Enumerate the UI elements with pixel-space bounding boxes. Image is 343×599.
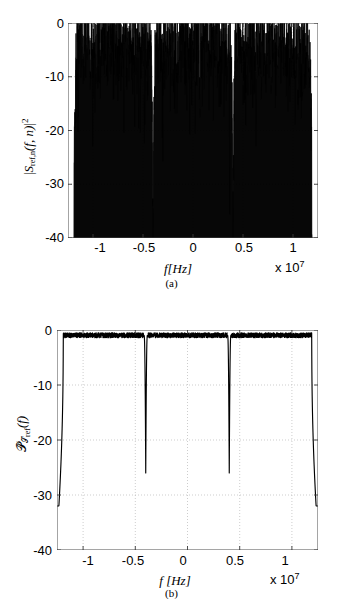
panel-b-ytick-0: 0 (24, 324, 52, 337)
panel-b-exponent: x 107 (270, 571, 300, 587)
panel-a-ytick-3: -30 (30, 177, 64, 190)
panel-a-ytick-2: -20 (30, 124, 64, 137)
panel-b-svg (57, 330, 318, 550)
panel-a-xtick-0: -1 (83, 241, 117, 254)
panel-a-xtick-2: 0 (176, 241, 210, 254)
panel-b-xtick-3: 0.5 (215, 554, 255, 567)
panel-b: 𝒫̂𝒮ref(f) 0 -10 -20 -30 -40 -1 -0.5 0 0.… (0, 292, 343, 596)
panel-a-plot-area (68, 23, 318, 238)
panel-a-xtick-3: 0.5 (224, 241, 264, 254)
panel-a-exponent-sup: 7 (300, 259, 305, 269)
panel-a-data-series (68, 23, 318, 238)
panel-a-ytick-4: -40 (30, 231, 64, 244)
panel-a: |Sref,n(f, n)|2 0 -10 -20 -30 -40 -1 -0.… (0, 0, 343, 292)
panel-b-ytick-3: -30 (18, 489, 52, 502)
panel-a-svg (68, 23, 318, 238)
panel-b-ytick-1: -10 (18, 379, 52, 392)
panel-b-caption: (b) (0, 587, 343, 599)
panel-b-exponent-sup: 7 (295, 571, 300, 581)
panel-b-gridlines (57, 330, 318, 550)
panel-b-ytick-2: -20 (18, 434, 52, 447)
panel-a-exponent-text: x 10 (275, 260, 300, 275)
panel-b-ytick-4: -40 (18, 544, 52, 557)
panel-b-xtick-0: -1 (71, 554, 105, 567)
panel-a-ytick-1: -10 (30, 70, 64, 83)
panel-a-caption: (a) (0, 277, 343, 289)
panel-b-plot-area (57, 330, 318, 550)
panel-a-ytick-0: 0 (36, 17, 64, 30)
panel-a-xlabel: f[Hz] (143, 261, 213, 277)
panel-a-exponent: x 107 (275, 259, 305, 275)
panel-b-xtick-1: -0.5 (113, 554, 153, 567)
panel-b-xtick-2: 0 (166, 554, 200, 567)
panel-a-xtick-4: 1 (276, 241, 310, 254)
panel-b-exponent-text: x 10 (270, 572, 295, 587)
panel-a-xtick-1: -0.5 (124, 241, 164, 254)
panel-b-xtick-4: 1 (268, 554, 302, 567)
